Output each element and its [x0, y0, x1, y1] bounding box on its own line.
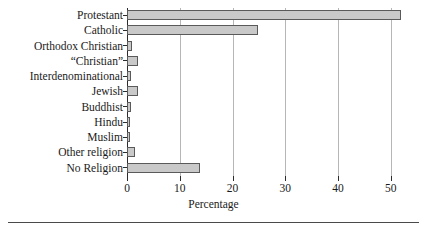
bar: [127, 102, 131, 112]
x-tick-label-40: 40: [332, 180, 344, 196]
category-label: Catholic: [0, 23, 123, 38]
x-axis-title: Percentage: [0, 198, 427, 210]
category-label: Other religion: [0, 145, 123, 160]
x-tick-label-30: 30: [280, 180, 292, 196]
bar-row: [127, 84, 404, 99]
bar: [127, 163, 200, 173]
x-tick-label-0: 0: [124, 180, 130, 196]
category-label: Muslim: [0, 130, 123, 145]
bar-row: [127, 100, 404, 115]
bar: [127, 25, 258, 35]
bar-row: [127, 39, 404, 54]
bar-rows: [127, 8, 404, 176]
bar-row: [127, 54, 404, 69]
category-label: “Christian”: [0, 54, 123, 69]
x-tick-label-50: 50: [385, 180, 397, 196]
bar-row: [127, 130, 404, 145]
bar: [127, 56, 138, 66]
category-label: Interdenominational: [0, 69, 123, 84]
category-label: Jewish: [0, 84, 123, 99]
plot-area: [127, 8, 404, 176]
category-label: No Religion: [0, 161, 123, 176]
bar: [127, 147, 135, 157]
bar-row: [127, 161, 404, 176]
bar-chart-figure: ProtestantCatholicOrthodox Christian“Chr…: [0, 0, 427, 234]
bar-row: [127, 115, 404, 130]
bar-row: [127, 23, 404, 38]
bar: [127, 117, 130, 127]
category-label: Orthodox Christian: [0, 39, 123, 54]
x-tick-label-20: 20: [227, 180, 239, 196]
bar: [127, 71, 131, 81]
bar-row: [127, 145, 404, 160]
bar: [127, 41, 132, 51]
category-label: Protestant: [0, 8, 123, 23]
bottom-divider-rule: [8, 222, 419, 223]
bar: [127, 86, 138, 96]
x-tick-label-10: 10: [174, 180, 186, 196]
category-axis-labels: ProtestantCatholicOrthodox Christian“Chr…: [0, 8, 123, 176]
bar-row: [127, 69, 404, 84]
bar-row: [127, 8, 404, 23]
category-label: Hindu: [0, 115, 123, 130]
bar: [127, 10, 401, 20]
category-label: Buddhist: [0, 100, 123, 115]
x-axis-tick-labels: 01020304050: [127, 180, 404, 196]
bar: [127, 132, 130, 142]
